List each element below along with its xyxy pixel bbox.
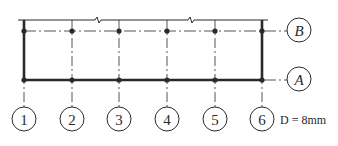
top-edge-line xyxy=(18,17,268,23)
grid-axis-diagram: 1 2 3 4 5 6 B A D = 8mm xyxy=(0,0,338,146)
grid-nodes xyxy=(21,28,264,82)
vertical-axis-lines xyxy=(24,20,262,107)
axis-label-A: A xyxy=(293,72,304,88)
axis-label-3: 3 xyxy=(115,112,123,128)
axis-bubble-A: A xyxy=(287,67,311,91)
axis-bubble-4: 4 xyxy=(155,107,179,131)
axis-label-6: 6 xyxy=(258,112,266,128)
bubble-diameter-note: D = 8mm xyxy=(280,113,327,127)
axis-bubble-2: 2 xyxy=(60,107,84,131)
axis-bubble-B: B xyxy=(287,18,311,42)
axis-label-2: 2 xyxy=(68,112,76,128)
axis-label-4: 4 xyxy=(163,112,171,128)
wall-outline xyxy=(23,20,263,81)
axis-bubble-1: 1 xyxy=(12,107,36,131)
axis-label-B: B xyxy=(294,23,303,39)
axis-label-5: 5 xyxy=(211,112,219,128)
axis-label-1: 1 xyxy=(20,112,28,128)
axis-bubble-6: 6 xyxy=(250,107,274,131)
axis-bubble-5: 5 xyxy=(203,107,227,131)
axis-bubble-3: 3 xyxy=(107,107,131,131)
horizontal-axis-lines xyxy=(24,31,287,80)
